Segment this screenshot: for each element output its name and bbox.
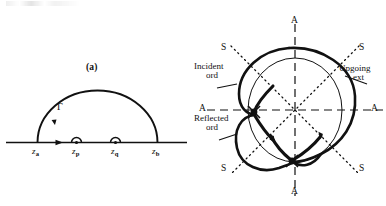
- axis-label-S-upper-left: S: [221, 42, 226, 52]
- annotation-reflected-ord: Reflected ord: [194, 114, 228, 133]
- axis-label-A-right: A: [371, 103, 378, 113]
- point-label-z-p-base: z: [72, 146, 76, 156]
- leader-incident-ord: [217, 84, 237, 88]
- axis-label-S-lower-left: S: [221, 163, 226, 173]
- point-label-z-a: za: [32, 146, 39, 157]
- point-label-z-q-base: z: [111, 146, 115, 156]
- ext-lobe-upper-left: [239, 48, 289, 115]
- pole-marker-q: [114, 141, 117, 144]
- contour-arc: [38, 91, 158, 143]
- ext-lobe-lower-left: [236, 115, 293, 170]
- annotation-incident-ord-line2: ord: [194, 71, 224, 80]
- contour-gamma-label: Γ: [57, 101, 63, 112]
- point-label-z-b: zb: [152, 146, 159, 157]
- point-label-z-b-sub: b: [156, 150, 160, 157]
- figure-root: (a) Γ za zp zq zb: [0, 0, 386, 206]
- point-label-z-p: zp: [72, 146, 79, 157]
- panel-a-complex-contour: (a) Γ za zp zq zb: [0, 0, 193, 206]
- point-label-z-q: zq: [111, 146, 118, 157]
- annotation-upgoing-ext: Upgoing ext: [339, 64, 371, 83]
- point-label-z-a-sub: a: [36, 150, 39, 157]
- annotation-upgoing-ext-line2: ext: [339, 73, 371, 82]
- pole-marker-p: [75, 141, 78, 144]
- annotation-reflected-ord-line2: ord: [194, 123, 228, 132]
- axis-label-S-lower-right: S: [359, 163, 364, 173]
- axis-label-A-bottom: A: [291, 186, 298, 196]
- leader-reflected-ord: [219, 134, 237, 140]
- panel-a-caption: (a): [86, 62, 98, 72]
- point-label-z-a-base: z: [32, 146, 36, 156]
- panel-a-drawing: [0, 0, 193, 206]
- annotation-incident-ord: Incident ord: [194, 62, 224, 81]
- contour-arc-arrowhead: [50, 117, 58, 125]
- panel-b-index-surface: (b): [193, 0, 386, 206]
- axis-label-S-upper-right: S: [359, 42, 364, 52]
- panel-b-drawing: [193, 0, 386, 206]
- point-label-z-q-sub: q: [115, 150, 119, 157]
- real-axis-arrowhead: [56, 140, 64, 146]
- point-label-z-b-base: z: [152, 146, 156, 156]
- axis-label-A-top: A: [291, 15, 298, 25]
- axis-label-A-left: A: [199, 103, 206, 113]
- point-label-z-p-sub: p: [76, 150, 80, 157]
